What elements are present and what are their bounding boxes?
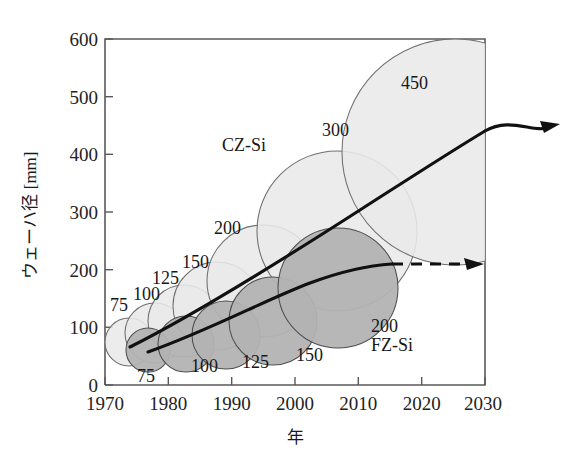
- x-tick-label-1980: 1980: [149, 393, 187, 414]
- x-tick-label-2030: 2030: [464, 393, 502, 414]
- y-tick-label-600: 600: [70, 29, 99, 50]
- x-tick-label-1970: 1970: [86, 393, 124, 414]
- bubble-label-cz-450: 450: [401, 73, 428, 93]
- chart-svg: 0 100 200 300 400 500 600 1970 1980 1990…: [0, 0, 588, 473]
- y-tick-label-200: 200: [70, 260, 99, 281]
- y-tick-label-500: 500: [70, 87, 99, 108]
- bubble-label-fz-125: 125: [242, 352, 269, 372]
- y-tick-label-100: 100: [70, 317, 99, 338]
- bubble-label-cz-150: 150: [182, 252, 209, 272]
- bubble-label-cz-200: 200: [214, 218, 241, 238]
- series-label-cz-si: CZ-Si: [222, 135, 266, 155]
- x-tick-label-2020: 2020: [403, 393, 441, 414]
- y-tick-label-400: 400: [70, 144, 99, 165]
- bubble-label-fz-200: 200: [371, 316, 398, 336]
- bubble-label-cz-75: 75: [110, 295, 128, 315]
- x-tick-label-2000: 2000: [276, 393, 314, 414]
- y-tick-label-300: 300: [70, 202, 99, 223]
- bubble-label-fz-100: 100: [191, 356, 218, 376]
- x-axis-title: 年: [287, 428, 304, 447]
- x-tick-label-1990: 1990: [213, 393, 251, 414]
- bubble-label-cz-125: 125: [152, 268, 179, 288]
- x-tick-label-2010: 2010: [339, 393, 377, 414]
- x-axis-tick-labels: 1970 1980 1990 2000 2010 2020 2030: [86, 393, 502, 414]
- bubble-label-cz-300: 300: [322, 120, 349, 140]
- bubble-label-fz-150: 150: [296, 345, 323, 365]
- y-axis-title: ウェーハ径 [mm]: [21, 151, 40, 278]
- series-label-fz-si: FZ-Si: [371, 335, 413, 355]
- bubble-chart-figure: 0 100 200 300 400 500 600 1970 1980 1990…: [0, 0, 588, 473]
- bubble-label-fz-75: 75: [137, 366, 155, 386]
